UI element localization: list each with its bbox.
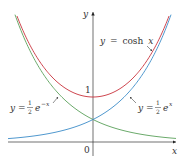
svg-text:2: 2 — [156, 108, 160, 115]
y-axis-label: y — [82, 9, 89, 19]
cosh-x: x — [148, 36, 153, 46]
half-exp-neg-x-annotation: y = 1 2 e −x — [9, 97, 58, 115]
cosh-fn: cosh — [122, 36, 143, 46]
x-axis-label: x — [172, 146, 177, 156]
right-annotation-arrow — [130, 97, 136, 103]
cosh-eq: = — [110, 36, 118, 46]
cosh-annotation: y = cosh x — [99, 36, 153, 51]
hyperbolic-cosine-chart: y x 0 1 y = cosh x y = 1 2 e −x y = 1 2 … — [0, 0, 184, 166]
origin-label: 0 — [84, 145, 90, 155]
half-exp-x-curve — [8, 15, 171, 139]
svg-text:x: x — [169, 100, 173, 107]
svg-text:=: = — [18, 103, 26, 113]
y-tick-one-label: 1 — [85, 85, 91, 95]
svg-text:y = cosh x: y = cosh x — [99, 36, 153, 46]
svg-text:e: e — [163, 103, 168, 113]
svg-text:e: e — [35, 103, 40, 113]
svg-text:y: y — [9, 103, 16, 113]
cosh-annotation-arrow — [147, 46, 152, 51]
svg-text:−x: −x — [41, 100, 50, 107]
svg-text:=: = — [146, 103, 154, 113]
svg-text:1: 1 — [156, 99, 160, 106]
cosh-y: y — [99, 36, 106, 46]
svg-text:y: y — [137, 103, 144, 113]
left-annotation-arrow — [53, 97, 58, 103]
half-exp-x-annotation: y = 1 2 e x — [130, 97, 173, 115]
svg-text:1: 1 — [28, 99, 32, 106]
svg-text:2: 2 — [28, 108, 32, 115]
half-exp-neg-x-curve — [15, 15, 176, 139]
